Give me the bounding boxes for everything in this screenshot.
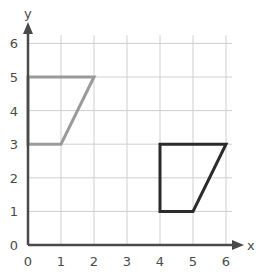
y-tick-label: 5 (10, 70, 18, 85)
y-tick-label: 3 (10, 137, 18, 152)
x-tick-label: 0 (24, 254, 32, 269)
x-tick-label: 2 (90, 254, 98, 269)
x-tick-label: 3 (123, 254, 131, 269)
coordinate-grid: x y 01234560123456 (0, 0, 264, 278)
y-tick-label: 6 (10, 36, 18, 51)
y-axis-label: y (24, 6, 32, 21)
x-tick-label: 6 (222, 254, 230, 269)
grid-lines (28, 35, 232, 245)
y-tick-label: 2 (10, 171, 18, 186)
x-axis-label: x (247, 238, 255, 253)
y-axis-arrow-icon (23, 22, 33, 34)
y-tick-label: 0 (10, 238, 18, 253)
y-tick-label: 4 (10, 104, 18, 119)
x-tick-label: 1 (57, 254, 65, 269)
x-tick-label: 5 (189, 254, 197, 269)
x-tick-label: 4 (156, 254, 164, 269)
y-tick-label: 1 (10, 204, 18, 219)
x-axis-arrow-icon (232, 240, 244, 250)
tick-labels: 01234560123456 (10, 36, 230, 269)
